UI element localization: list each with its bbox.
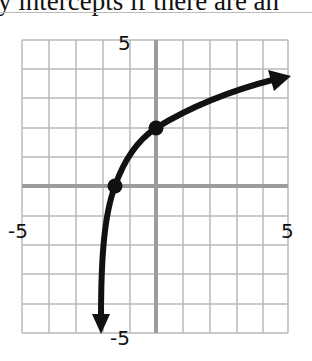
x-max-label: 5 bbox=[281, 219, 294, 243]
curve bbox=[92, 70, 291, 334]
tick-labels: 5 -5 -5 5 bbox=[8, 31, 294, 350]
y-min-label: -5 bbox=[110, 326, 130, 350]
y-intercept-point bbox=[149, 121, 164, 136]
log-function-graph: 5 -5 -5 5 bbox=[0, 0, 312, 361]
x-intercept-point bbox=[108, 179, 123, 194]
x-min-label: -5 bbox=[8, 219, 28, 243]
y-max-label: 5 bbox=[118, 31, 131, 55]
arrow-down-icon bbox=[92, 314, 110, 334]
